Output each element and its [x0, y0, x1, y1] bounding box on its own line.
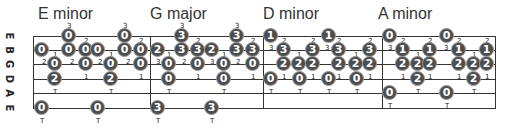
finger-annotation: T: [269, 88, 273, 96]
note-dot: 0: [133, 42, 148, 57]
finger-annotation: T: [416, 88, 420, 96]
note-dot: 0: [90, 100, 105, 115]
note-dot: 0: [117, 42, 132, 57]
chord-title: A minor: [378, 5, 432, 23]
note-dot: 2: [150, 42, 165, 57]
note-dot: 3: [190, 42, 205, 57]
note-dot: 0: [34, 100, 49, 115]
finger-annotation: T: [355, 88, 359, 96]
finger-annotation: 2: [42, 58, 46, 66]
note-dot: 1: [395, 42, 410, 57]
note-dot: 2: [466, 71, 481, 86]
finger-annotation: 3: [325, 44, 329, 52]
finger-annotation: 2: [98, 58, 102, 66]
note-dot: 2: [305, 56, 320, 71]
finger-annotation: 1: [251, 73, 255, 81]
note-dot: 0: [90, 42, 105, 57]
finger-annotation: 1: [457, 73, 461, 81]
finger-annotation: T: [53, 88, 57, 96]
finger-annotation: 1: [139, 73, 143, 81]
string-line: [33, 93, 495, 94]
finger-annotation: T: [96, 117, 100, 125]
note-dot: 3: [150, 100, 165, 115]
note-dot: 2: [362, 56, 377, 71]
note-dot: 0: [439, 85, 454, 100]
note-dot: 1: [479, 42, 494, 57]
note-dot: 0: [439, 28, 454, 43]
section-divider: [263, 36, 264, 109]
note-dot: 0: [133, 56, 148, 71]
note-dot: 1: [263, 28, 278, 43]
finger-annotation: T: [388, 102, 392, 110]
string-label: G: [4, 59, 14, 69]
finger-annotation: 1: [401, 73, 405, 81]
note-dot: 0: [292, 71, 307, 86]
finger-annotation: 3: [210, 58, 214, 66]
finger-annotation: 1: [485, 73, 489, 81]
note-dot: 0: [349, 71, 364, 86]
finger-annotation: T: [222, 88, 226, 96]
note-dot: 0: [263, 71, 278, 86]
finger-annotation: 3: [269, 44, 273, 52]
note-dot: 2: [479, 56, 494, 71]
note-dot: 2: [451, 56, 466, 71]
finger-annotation: T: [298, 88, 302, 96]
finger-annotation: T: [210, 117, 214, 125]
note-dot: 2: [410, 71, 425, 86]
note-dot: 3: [229, 28, 244, 43]
note-dot: 0: [61, 42, 76, 57]
note-dot: 0: [382, 85, 397, 100]
finger-annotation: 2: [126, 58, 130, 66]
chord-title: E minor: [38, 5, 93, 23]
finger-annotation: 1: [428, 73, 432, 81]
finger-annotation: T: [472, 88, 476, 96]
note-dot: 0: [321, 71, 336, 86]
note-dot: 1: [321, 28, 336, 43]
finger-annotation: T: [40, 117, 44, 125]
string-label: A: [4, 88, 14, 98]
finger-annotation: 1: [196, 73, 200, 81]
string-label: E: [4, 31, 14, 41]
note-dot: 0: [216, 71, 231, 86]
finger-annotation: T: [445, 102, 449, 110]
finger-annotation: 3: [156, 58, 160, 66]
finger-annotation: 3: [388, 44, 392, 52]
finger-annotation: T: [156, 117, 160, 125]
note-dot: 0: [34, 42, 49, 57]
finger-annotation: 1: [311, 73, 315, 81]
note-dot: 3: [362, 42, 377, 57]
finger-annotation: 2: [182, 58, 186, 66]
finger-annotation: 1: [84, 73, 88, 81]
note-dot: 1: [451, 42, 466, 57]
note-dot: 3: [331, 42, 346, 57]
note-dot: 2: [348, 56, 363, 71]
note-dot: 0: [78, 56, 93, 71]
note-dot: 2: [422, 56, 437, 71]
note-dot: 0: [61, 28, 76, 43]
note-dot: 3: [174, 28, 189, 43]
note-dot: 0: [216, 56, 231, 71]
note-dot: 2: [47, 71, 62, 86]
note-dot: 0: [161, 71, 176, 86]
section-divider: [382, 36, 383, 109]
note-dot: 3: [305, 42, 320, 57]
note-dot: 0: [190, 56, 205, 71]
note-dot: 3: [276, 42, 291, 57]
note-dot: 3: [174, 42, 189, 57]
finger-annotation: T: [327, 88, 331, 96]
finger-annotation: T: [109, 88, 113, 96]
note-dot: 0: [117, 28, 132, 43]
note-dot: 3: [245, 42, 260, 57]
note-dot: 0: [47, 56, 62, 71]
chord-title: D minor: [263, 5, 319, 23]
string-label: E: [4, 103, 14, 113]
finger-annotation: 2: [70, 58, 74, 66]
note-dot: 0: [161, 56, 176, 71]
note-dot: 2: [395, 56, 410, 71]
note-dot: 0: [245, 56, 260, 71]
section-divider: [495, 36, 496, 109]
note-dot: 1: [422, 42, 437, 57]
note-dot: 0: [103, 56, 118, 71]
finger-annotation: 1: [337, 73, 341, 81]
finger-annotation: 1: [282, 73, 286, 81]
